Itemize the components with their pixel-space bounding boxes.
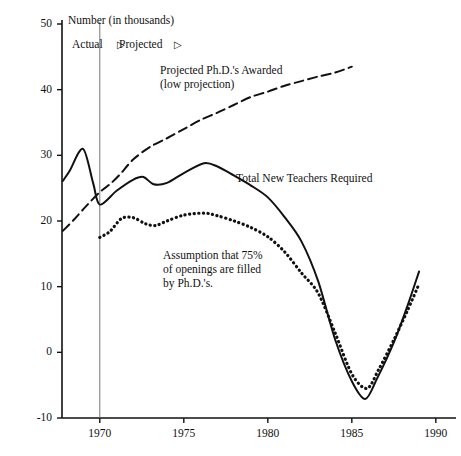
series-line-2 <box>100 213 419 388</box>
x-axis-tick-1975: 1975 <box>161 427 207 439</box>
projected-phase-label: Projected <box>119 38 162 50</box>
y-axis-tick--10: -10 <box>18 411 52 423</box>
y-axis-tick-10: 10 <box>18 280 52 292</box>
phd-series-annotation-line1: Projected Ph.D.'s Awarded <box>160 64 282 78</box>
x-axis-tick-1970: 1970 <box>77 427 123 439</box>
projected-phase-arrow-icon: ▷ <box>174 40 182 50</box>
teachers-series-annotation: Total New Teachers Required <box>236 172 372 186</box>
assumption-note-line1: Assumption that 75% <box>163 249 263 263</box>
y-axis-unit-label: Number (in thousands) <box>68 14 174 26</box>
chart-container: 50403020100-10 19701975198019851990 Numb… <box>0 0 461 456</box>
y-axis-tick-20: 20 <box>18 214 52 226</box>
chart-series-group <box>63 67 419 399</box>
x-axis-tick-1985: 1985 <box>329 427 375 439</box>
assumption-note-line2: of openings are filled <box>163 263 261 277</box>
assumption-note-line3: by Ph.D.'s. <box>163 277 213 291</box>
x-axis-tick-1990: 1990 <box>413 427 459 439</box>
y-axis-tick-50: 50 <box>18 17 52 29</box>
actual-phase-label: Actual <box>72 38 103 50</box>
y-axis-tick-30: 30 <box>18 148 52 160</box>
y-axis-tick-40: 40 <box>18 83 52 95</box>
phd-series-annotation-line2: (low projection) <box>160 78 234 92</box>
y-axis-tick-0: 0 <box>18 345 52 357</box>
x-axis-tick-1980: 1980 <box>245 427 291 439</box>
